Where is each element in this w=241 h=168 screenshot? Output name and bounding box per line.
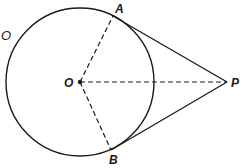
point-p-label: P	[231, 76, 240, 90]
tangent-circle-diagram: O O A B P	[0, 0, 241, 168]
center-label: O	[64, 76, 74, 90]
tangent-bp	[111, 82, 227, 150]
point-b-label: B	[109, 153, 118, 167]
center-point	[78, 80, 82, 84]
circle-label: O	[1, 28, 11, 43]
radius-oa	[80, 16, 113, 82]
tangent-ap	[113, 16, 227, 82]
point-a-label: A	[114, 2, 124, 16]
radius-ob	[80, 82, 111, 150]
